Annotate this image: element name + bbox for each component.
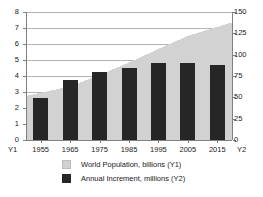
legend-item-world-population: World Population, billions (Y1) [62,158,222,171]
y1-tick-label: 5 [5,56,19,64]
y2-tick-label: 25 [234,115,256,123]
bar [63,80,78,140]
y2-tick-label: 0 [234,136,256,144]
y2-tick-label: 75 [234,72,256,80]
bar [33,98,48,140]
chart-figure: 012345678 0255075100125150 1955196519751… [0,0,263,197]
y1-tick-label: 0 [5,136,19,144]
x-tick-label: 1975 [85,146,115,154]
y1-tick-label: 7 [5,24,19,32]
plot-area: 012345678 0255075100125150 [0,0,263,150]
y1-tick-label: 2 [5,104,19,112]
x-tick-label: 1965 [55,146,85,154]
x-tick-label: 2005 [173,146,203,154]
y2-tick-label: 50 [234,93,256,101]
bar [180,63,195,140]
y2-tick-label: 150 [234,8,256,16]
legend-label-world-population: World Population, billions (Y1) [81,161,181,169]
legend-label-annual-increment: Annual Increment, millions (Y2) [81,175,185,183]
chart-canvas [0,0,263,150]
y2-tick-label: 125 [234,29,256,37]
x-tick-label: 1985 [114,146,144,154]
y1-tick-label: 6 [5,40,19,48]
legend-swatch-bar-icon [62,174,71,183]
chart-legend: World Population, billions (Y1) Annual I… [62,158,222,186]
bar [210,65,225,140]
x-tick-label: 1955 [26,146,56,154]
x-tick-label: 1995 [143,146,173,154]
y2-axis-name: Y2 [237,146,246,154]
y1-tick-label: 4 [5,72,19,80]
bar [151,63,166,140]
y2-tick-label: 100 [234,51,256,59]
bar [122,68,137,140]
legend-item-annual-increment: Annual Increment, millions (Y2) [62,172,222,185]
y1-tick-label: 3 [5,88,19,96]
y1-tick-label: 8 [5,8,19,16]
legend-swatch-area-icon [62,160,71,169]
y1-tick-label: 1 [5,120,19,128]
bar [92,72,107,140]
x-tick-label: 2015 [202,146,232,154]
y1-axis-name: Y1 [8,146,17,154]
